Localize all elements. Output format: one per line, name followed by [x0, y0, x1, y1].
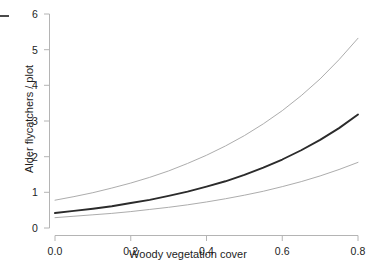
x-axis-title: Woody vegetation cover	[0, 248, 376, 260]
curve-1	[55, 115, 358, 213]
curve-group	[55, 38, 358, 217]
y-axis-ticks	[44, 14, 50, 228]
ytick-label-0: 0	[20, 222, 38, 234]
curve-0	[55, 38, 358, 200]
chart-figure: 6 5 4 3 2 1 0 0.0 0.2 0.4 0.6 0.8 Alder …	[0, 0, 376, 271]
ytick-label-6: 6	[20, 8, 38, 20]
curve-2	[55, 162, 358, 217]
y-axis-title: Alder flycatchers / plot	[23, 39, 35, 199]
plot-area	[0, 0, 376, 271]
x-axis-ticks	[55, 236, 358, 242]
